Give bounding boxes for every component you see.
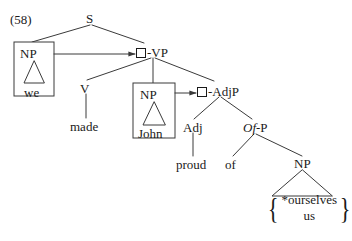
- edge-adjp-adj: [194, 97, 219, 119]
- node-np-complement: NP: [294, 157, 311, 170]
- edge-adjp-ofp: [221, 97, 252, 119]
- node-adjp: -AdjP: [197, 85, 239, 98]
- edge-s-vp: [92, 25, 144, 43]
- alternation-items: *ourselves us: [280, 192, 338, 225]
- node-adj: Adj: [183, 121, 203, 134]
- leaf-ourselves: *ourselves: [281, 192, 337, 208]
- edge-s-np: [32, 25, 90, 42]
- right-brace: }: [340, 194, 351, 223]
- node-np-subject: NP: [20, 47, 37, 60]
- empty-category-box-adjp: [197, 87, 207, 97]
- node-adjp-label: -AdjP: [208, 85, 239, 98]
- edge-vp-v: [87, 58, 151, 80]
- node-s: S: [86, 12, 93, 25]
- node-vp-label: -VP: [147, 46, 168, 59]
- left-brace: {: [268, 194, 279, 223]
- leaf-we: we: [24, 86, 39, 99]
- node-v: V: [80, 82, 89, 95]
- edge-ofp-np: [256, 134, 302, 156]
- empty-category-box-vp: [136, 48, 146, 58]
- example-number: (58): [10, 13, 32, 26]
- node-vp: -VP: [136, 46, 168, 59]
- node-of-p: Of-P: [243, 121, 268, 134]
- alternation-brace-group: { *ourselves us }: [266, 192, 352, 225]
- edge-ofp-of: [233, 134, 254, 156]
- syntax-tree-figure: (58) S NP we -VP V made NP John -AdjP Ad…: [0, 0, 352, 241]
- leaf-proud: proud: [176, 158, 206, 171]
- leaf-made: made: [70, 120, 98, 133]
- node-np-object: NP: [140, 88, 157, 101]
- node-of-p-italic: Of: [243, 120, 256, 135]
- leaf-us: us: [303, 208, 315, 224]
- node-of-p-suffix: -P: [256, 120, 268, 135]
- leaf-of: of: [225, 158, 236, 171]
- edge-vp-adjp: [155, 58, 214, 81]
- leaf-john: John: [138, 127, 163, 140]
